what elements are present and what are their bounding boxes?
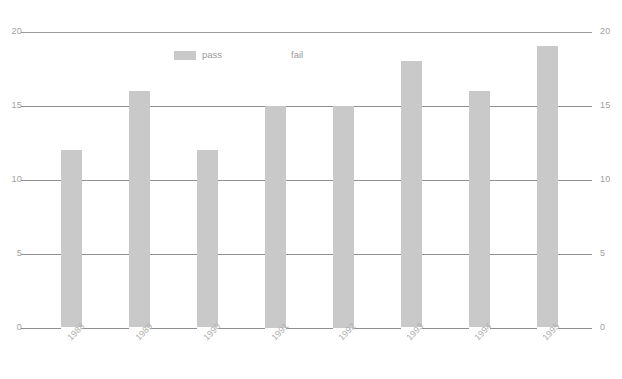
gridline-15 bbox=[286, 106, 333, 107]
y-axis-label-right-0: 0 bbox=[600, 323, 620, 332]
gridline-0 bbox=[21, 328, 61, 329]
gridline-5 bbox=[218, 254, 265, 255]
legend-label-fail: fail bbox=[291, 50, 303, 60]
gridline-5 bbox=[354, 254, 401, 255]
legend-swatch-fail bbox=[263, 51, 285, 60]
gridline-0 bbox=[218, 328, 265, 329]
bar-1989[interactable] bbox=[129, 91, 150, 328]
y-axis-label-right-10: 10 bbox=[600, 175, 620, 184]
bar-1990[interactable] bbox=[197, 150, 218, 328]
gridline-10 bbox=[82, 180, 129, 181]
gridline-15 bbox=[150, 106, 265, 107]
plot-area: 0055101015152020198819891990199119921993… bbox=[0, 0, 622, 379]
gridline-5 bbox=[150, 254, 197, 255]
gridline-5 bbox=[286, 254, 333, 255]
bar-1993[interactable] bbox=[401, 61, 422, 327]
gridline-5 bbox=[82, 254, 129, 255]
y-axis-label-right-15: 15 bbox=[600, 101, 620, 110]
gridline-15 bbox=[354, 106, 401, 107]
gridline-10 bbox=[21, 180, 61, 181]
gridline-0 bbox=[354, 328, 401, 329]
legend-label-pass: pass bbox=[202, 50, 222, 60]
gridline-0 bbox=[150, 328, 197, 329]
gridline-10 bbox=[286, 180, 333, 181]
gridline-5 bbox=[422, 254, 469, 255]
gridline-0 bbox=[558, 328, 592, 329]
gridline-0 bbox=[490, 328, 537, 329]
y-axis-label-right-20: 20 bbox=[600, 27, 620, 36]
gridline-10 bbox=[218, 180, 265, 181]
bar-1994[interactable] bbox=[469, 91, 490, 328]
y-axis-label-left-5: 5 bbox=[4, 249, 22, 258]
gridline-15 bbox=[21, 106, 129, 107]
gridline-15 bbox=[490, 106, 537, 107]
gridline-0 bbox=[286, 328, 333, 329]
gridline-10 bbox=[490, 180, 537, 181]
gridline-10 bbox=[354, 180, 401, 181]
y-axis-label-left-20: 20 bbox=[4, 27, 22, 36]
gridline-5 bbox=[490, 254, 537, 255]
y-axis-label-left-10: 10 bbox=[4, 175, 22, 184]
bar-1995[interactable] bbox=[537, 46, 558, 327]
gridline-5 bbox=[21, 254, 61, 255]
gridline-15 bbox=[558, 106, 592, 107]
gridline-5 bbox=[558, 254, 592, 255]
y-axis-label-left-15: 15 bbox=[4, 101, 22, 110]
gridline-10 bbox=[422, 180, 469, 181]
gridline-10 bbox=[150, 180, 197, 181]
gridline-0 bbox=[422, 328, 469, 329]
legend-swatch-pass bbox=[174, 51, 196, 60]
gridline-20 bbox=[21, 32, 592, 33]
gridline-0 bbox=[82, 328, 129, 329]
bar-1992[interactable] bbox=[333, 106, 354, 328]
gridline-10 bbox=[558, 180, 592, 181]
gridline-15 bbox=[422, 106, 469, 107]
bar-chart: 0055101015152020198819891990199119921993… bbox=[0, 0, 622, 379]
y-axis-label-right-5: 5 bbox=[600, 249, 620, 258]
bar-1988[interactable] bbox=[61, 150, 82, 328]
y-axis-label-left-0: 0 bbox=[4, 323, 22, 332]
bar-1991[interactable] bbox=[265, 106, 286, 328]
